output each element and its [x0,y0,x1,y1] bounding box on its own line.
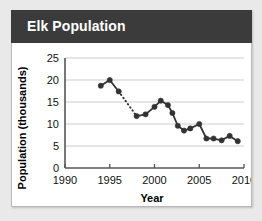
x-tick-label: 2010 [232,174,251,186]
data-point-marker [181,128,186,133]
y-tick-label: 0 [53,162,59,174]
x-tick-label: 2005 [187,174,211,186]
y-axis-label: Population (thousands) [16,66,28,189]
x-tick-label: 2000 [142,174,166,186]
y-tick-label: 20 [47,74,59,86]
chart-canvas: 0510152025 19901995200020052010 Populati… [12,44,251,206]
data-point-marker [134,113,139,118]
y-tick-label: 5 [53,140,59,152]
data-series-line [101,80,238,141]
y-tick-label: 15 [47,96,59,108]
y-tick-label: 10 [47,118,59,130]
data-point-marker [170,110,175,115]
x-axis-label: Year [140,192,164,204]
data-series-markers [98,77,240,143]
data-point-marker [227,133,232,138]
data-point-marker [204,136,209,141]
x-axis-tick-labels: 19901995200020052010 [53,174,251,186]
page-root: Elk Population 0510152025 19901995200020… [0,0,262,221]
data-point-marker [116,89,121,94]
data-point-marker [175,123,180,128]
data-point-marker [197,121,202,126]
line-chart: 0510152025 19901995200020052010 Populati… [12,44,251,206]
y-tick-label: 25 [47,52,59,64]
data-point-marker [211,136,216,141]
data-point-marker [143,112,148,117]
series-segment-dotted [119,91,137,116]
elk-population-card: Elk Population 0510152025 19901995200020… [11,10,252,207]
data-point-marker [235,139,240,144]
x-tick-label: 1995 [98,174,122,186]
x-tick-label: 1990 [53,174,77,186]
grid-lines [65,58,244,146]
x-axis-spine [65,164,244,168]
data-point-marker [165,102,170,107]
data-point-marker [219,138,224,143]
page-title: Elk Population [27,18,126,34]
card-header: Elk Population [11,10,252,43]
data-point-marker [158,98,163,103]
y-axis-tick-labels: 0510152025 [47,52,59,174]
data-point-marker [152,104,157,109]
data-point-marker [107,77,112,82]
data-point-marker [188,126,193,131]
data-point-marker [98,83,103,88]
